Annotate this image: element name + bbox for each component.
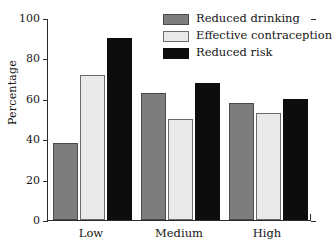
y-axis-tick — [43, 59, 48, 60]
legend-item: Reduced risk — [163, 45, 323, 61]
bar — [80, 75, 105, 220]
y-axis-tick — [43, 221, 48, 222]
legend-swatch-icon — [163, 14, 189, 25]
bar — [229, 103, 254, 220]
y-axis-tick-label: 40 — [14, 134, 40, 145]
bar — [53, 143, 78, 220]
y-axis-tick-label: 100 — [14, 13, 40, 24]
legend-item: Reduced drinking — [163, 11, 323, 27]
x-axis-right-cap — [310, 214, 311, 220]
legend-swatch-icon — [163, 31, 189, 42]
legend-item: Effective contraception — [163, 28, 323, 44]
y-axis-tick — [43, 100, 48, 101]
x-axis-tick-label: High — [253, 226, 281, 240]
y-axis-tick — [43, 140, 48, 141]
bar — [256, 113, 281, 220]
y-axis-tick-label: 80 — [14, 53, 40, 64]
y-axis-tick-label: 20 — [14, 175, 40, 186]
bar — [168, 119, 193, 220]
x-axis-tick-label: Medium — [155, 226, 203, 240]
bar — [195, 83, 220, 220]
y-axis-tick-labels: 020406080100 — [10, 0, 40, 250]
legend-item-label: Reduced risk — [196, 47, 273, 59]
y-axis-tick-label: 60 — [14, 94, 40, 105]
bar — [107, 38, 132, 220]
y-axis-tick — [43, 181, 48, 182]
bar — [141, 93, 166, 220]
y-axis-tick — [43, 19, 48, 20]
chart-legend: Reduced drinkingEffective contraceptionR… — [163, 11, 323, 62]
legend-swatch-icon — [163, 48, 189, 59]
y-axis-tick-label: 0 — [14, 215, 40, 226]
legend-item-label: Effective contraception — [196, 30, 332, 42]
legend-item-label: Reduced drinking — [196, 13, 300, 25]
bar — [283, 99, 308, 220]
y-axis-tick-right — [311, 221, 316, 222]
x-axis-tick-label: Low — [79, 226, 103, 240]
